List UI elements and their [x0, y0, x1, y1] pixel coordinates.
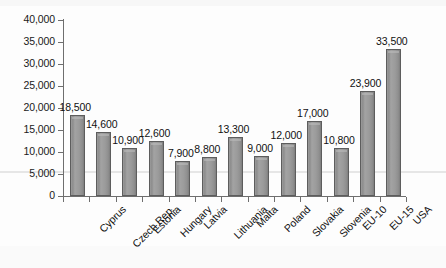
- y-axis-tick-label: 25,000: [0, 79, 55, 91]
- x-axis-category-label: USA: [410, 203, 434, 227]
- bar-value-label: 7,900: [168, 147, 194, 159]
- bar: [254, 156, 269, 196]
- x-axis-tick: [169, 197, 170, 202]
- y-axis-tick-label: 20,000: [0, 101, 55, 113]
- scan-artifact-top: [0, 0, 446, 6]
- bar-value-label: 17,000: [297, 107, 329, 119]
- x-axis-tick: [195, 197, 196, 202]
- bar-value-label: 23,900: [350, 77, 382, 89]
- x-axis-tick: [274, 197, 275, 202]
- scan-artifact-bottom: [0, 246, 446, 268]
- x-axis-tick: [353, 197, 354, 202]
- bar-value-label: 9,000: [247, 142, 273, 154]
- bar: [281, 143, 296, 196]
- y-axis-tick-label: 40,000: [0, 13, 55, 25]
- x-axis-tick: [380, 197, 381, 202]
- bar: [334, 148, 349, 196]
- bar: [122, 148, 137, 196]
- bar-value-label: 14,600: [86, 118, 118, 130]
- bar: [149, 141, 164, 196]
- x-axis-category-label: Poland: [281, 203, 312, 234]
- bar-value-label: 12,600: [139, 127, 171, 139]
- bar: [386, 49, 401, 196]
- bar-value-label: 10,800: [323, 134, 355, 146]
- bar-value-label: 12,000: [271, 129, 303, 141]
- x-axis-line: [63, 196, 406, 197]
- bar-value-label: 13,300: [218, 123, 250, 135]
- x-axis-category-label: Cyprus: [97, 203, 129, 235]
- x-axis-tick: [221, 197, 222, 202]
- y-axis-tick-label: 35,000: [0, 35, 55, 47]
- bar-value-label: 8,800: [194, 143, 220, 155]
- y-axis-tick-label: 15,000: [0, 123, 55, 135]
- x-axis-tick: [116, 197, 117, 202]
- bar: [307, 121, 322, 196]
- y-axis-tick-label: 30,000: [0, 57, 55, 69]
- bar: [175, 161, 190, 196]
- x-axis-tick: [300, 197, 301, 202]
- y-axis-tick-label: 5,000: [0, 167, 55, 179]
- bar: [360, 91, 375, 196]
- y-axis-tick-labels: 05,00010,00015,00020,00025,00030,00035,0…: [0, 0, 55, 268]
- x-axis-tick: [406, 197, 407, 202]
- bar-chart: 05,00010,00015,00020,00025,00030,00035,0…: [0, 0, 446, 268]
- bar: [70, 115, 85, 196]
- x-axis-tick: [89, 197, 90, 202]
- x-axis-tick: [63, 197, 64, 202]
- x-axis-tick: [248, 197, 249, 202]
- x-axis-tick: [142, 197, 143, 202]
- y-axis-tick-label: 0: [0, 189, 55, 201]
- y-axis-tick-label: 10,000: [0, 145, 55, 157]
- bar-value-label: 33,500: [376, 35, 408, 47]
- bar: [228, 137, 243, 196]
- bar: [202, 157, 217, 196]
- bar-value-label: 18,500: [59, 101, 91, 113]
- x-axis-tick: [327, 197, 328, 202]
- bar: [96, 132, 111, 196]
